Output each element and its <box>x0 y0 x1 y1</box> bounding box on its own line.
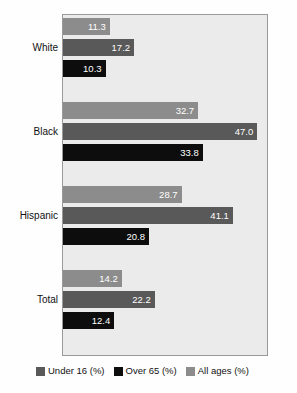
bar-value-label: 41.1 <box>210 211 229 221</box>
bar-chart-figure: White Black Hispanic Total 11.317.210.33… <box>0 0 297 393</box>
bar-value-label: 32.7 <box>176 106 195 116</box>
bar-value-label: 22.2 <box>132 295 151 305</box>
bar-value-label: 11.3 <box>88 22 106 32</box>
bar: 41.1 <box>63 207 233 224</box>
legend-item-all-ages: All ages (%) <box>186 366 249 376</box>
bar: 11.3 <box>63 18 110 35</box>
legend-label-over-65: Over 65 (%) <box>126 366 177 376</box>
bar: 33.8 <box>63 144 203 161</box>
legend-label-all-ages: All ages (%) <box>198 366 249 376</box>
bar-value-label: 12.4 <box>92 316 111 326</box>
category-label-column: White Black Hispanic Total <box>0 14 58 356</box>
bar-value-label: 14.2 <box>99 274 118 284</box>
bar-value-label: 20.8 <box>126 232 145 242</box>
bar: 22.2 <box>63 291 155 308</box>
bar: 14.2 <box>63 270 122 287</box>
legend-swatch-icon-over-65 <box>114 367 123 376</box>
chart-legend: Under 16 (%) Over 65 (%) All ages (%) <box>36 364 284 378</box>
bar: 20.8 <box>63 228 149 245</box>
category-label-black: Black <box>0 125 58 136</box>
category-label-total: Total <box>0 293 58 304</box>
bar-value-label: 10.3 <box>83 64 102 74</box>
legend-item-over-65: Over 65 (%) <box>114 366 177 376</box>
bar: 47.0 <box>63 123 257 140</box>
bar: 10.3 <box>63 60 106 77</box>
bar: 28.7 <box>63 186 182 203</box>
legend-swatch-icon-all-ages <box>186 367 195 376</box>
bar: 17.2 <box>63 39 134 56</box>
category-label-hispanic: Hispanic <box>0 209 58 220</box>
plot-area: 11.317.210.332.747.033.828.741.120.814.2… <box>62 14 268 356</box>
legend-swatch-icon-under-16 <box>36 367 45 376</box>
bar-value-label: 33.8 <box>180 148 199 158</box>
bar-value-label: 28.7 <box>159 190 178 200</box>
bar-value-label: 47.0 <box>235 127 254 137</box>
category-label-white: White <box>0 41 58 52</box>
bar: 12.4 <box>63 312 114 329</box>
bar: 32.7 <box>63 102 198 119</box>
legend-item-under-16: Under 16 (%) <box>36 366 105 376</box>
bar-value-label: 17.2 <box>112 43 131 53</box>
legend-label-under-16: Under 16 (%) <box>48 366 105 376</box>
